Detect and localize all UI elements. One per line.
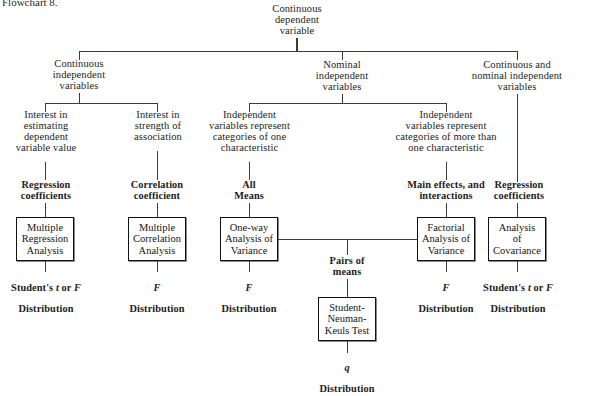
label-regression-coefficients: Regression coefficients	[10, 180, 82, 201]
connector-continuous-nominal-iv-stem	[517, 94, 518, 182]
node-continuous-dependent-variable: Continuous dependent variable	[259, 4, 335, 37]
label-students-t-or-f-distribution-ancova: Student's t or F Distribution	[474, 272, 562, 326]
distribution-word: Distribution	[118, 304, 196, 315]
label-regression-coefficients-2: Regression coefficients	[483, 180, 555, 201]
connector-maineffects-to-box	[446, 203, 447, 217]
node-categories-of-one-characteristic: Independent variables represent categori…	[195, 110, 304, 154]
label-students-t-or-f-distribution-left: Student's t or F Distribution	[2, 272, 90, 326]
label-q-distribution: q Distribution	[308, 352, 386, 396]
node-continuous-and-nominal-independent-variables: Continuous and nominal independent varia…	[459, 60, 575, 93]
connector-pairs-of-means-stem	[347, 239, 348, 255]
node-continuous-independent-variables: Continuous independent variables	[35, 59, 123, 92]
connector-root-stem	[296, 38, 297, 51]
label-all-means: All Means	[219, 180, 279, 201]
box-multiple-regression-analysis[interactable]: Multiple Regression Analysis	[16, 217, 74, 261]
node-categories-of-more-than-one-characteristic: Independent variables represent categori…	[377, 110, 515, 154]
connector-one-characteristic-stem	[249, 162, 250, 180]
distribution-word: Distribution	[2, 304, 90, 315]
connector-more-than-one-stem	[446, 162, 447, 180]
connector-nominal-iv-bus	[249, 103, 446, 104]
figure-caption: Flowchart 8.	[2, 0, 58, 8]
label-main-effects-and-interactions: Main effects, and interactions	[397, 180, 495, 201]
distribution-word: Distribution	[308, 384, 386, 395]
connector-box-anova-down	[249, 261, 250, 272]
connector-pairs-to-snk	[347, 279, 348, 297]
connector-box-factorial-down	[446, 261, 447, 272]
students-t-or-f-line: Student's t or F	[2, 283, 90, 294]
distribution-word: Distribution	[474, 304, 562, 315]
connector-allmeans-to-box	[249, 203, 250, 217]
node-interest-in-strength: Interest in strength of association	[120, 110, 196, 143]
f-letter: F	[210, 283, 288, 294]
connector-box-correlation-down	[157, 261, 158, 272]
connector-continuous-iv-bus	[45, 103, 158, 104]
box-factorial-analysis-of-variance[interactable]: Factorial Analysis of Variance	[417, 217, 475, 261]
connector-box-regression-down	[45, 261, 46, 272]
connector-level2-bus	[79, 51, 518, 52]
connector-strength-stem	[157, 151, 158, 180]
box-student-neuman-keuls-test[interactable]: Student- Neuman- Keuls Test	[318, 297, 376, 341]
node-interest-in-estimating: Interest in estimating dependent variabl…	[8, 110, 84, 154]
students-t-or-f-line: Student's t or F	[474, 283, 562, 294]
label-correlation-coefficient: Correlation coefficient	[121, 180, 193, 201]
connector-estimating-stem	[45, 162, 46, 180]
node-nominal-independent-variables: Nominal independent variables	[300, 60, 384, 93]
connector-regcoef2-to-box	[517, 203, 518, 217]
q-letter: q	[308, 363, 386, 374]
distribution-word: Distribution	[210, 304, 288, 315]
connector-continuous-iv-stem	[79, 93, 80, 103]
box-analysis-of-covariance[interactable]: Analysis of Covariance	[488, 217, 546, 261]
label-f-distribution-correlation: F Distribution	[118, 272, 196, 326]
connector-corrcoef-to-box	[157, 203, 158, 217]
connector-regcoef-to-box	[45, 203, 46, 217]
connector-box-ancova-down	[517, 261, 518, 272]
box-multiple-correlation-analysis[interactable]: Multiple Correlation Analysis	[128, 217, 186, 261]
label-pairs-of-means: Pairs of means	[315, 256, 379, 277]
box-one-way-analysis-of-variance[interactable]: One-way Analysis of Variance	[220, 217, 278, 261]
f-letter: F	[118, 283, 196, 294]
label-f-distribution-one-way-anova: F Distribution	[210, 272, 288, 326]
